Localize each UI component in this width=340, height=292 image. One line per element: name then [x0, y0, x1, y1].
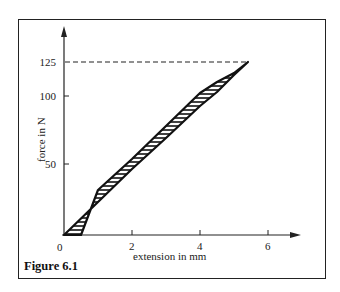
y-axis-label: force in N — [35, 117, 47, 162]
x-tick-0: 0 — [57, 241, 63, 253]
x-axis-label: extension in mm — [133, 250, 206, 262]
x-tick-6: 6 — [265, 240, 271, 252]
chart-plot — [0, 0, 340, 292]
y-tick-125: 125 — [26, 56, 56, 68]
figure-caption: Figure 6.1 — [24, 259, 78, 274]
x-axis-arrow-icon — [290, 232, 301, 238]
y-axis-arrow-icon — [61, 26, 67, 37]
y-tick-100: 100 — [26, 90, 56, 102]
hysteresis-loop — [64, 62, 248, 235]
